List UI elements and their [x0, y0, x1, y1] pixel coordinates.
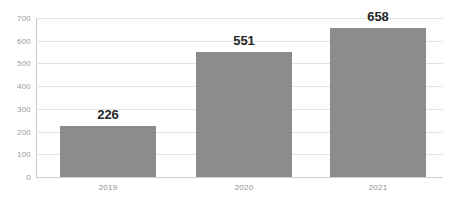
y-axis-tick-label: 400	[17, 82, 31, 91]
bar-value-label: 658	[367, 9, 388, 24]
y-axis-tick-label: 200	[17, 127, 31, 136]
gridline	[36, 177, 443, 178]
y-axis-tick-label: 700	[17, 14, 31, 23]
bar[interactable]	[196, 52, 292, 177]
x-axis-category-label: 2020	[235, 183, 254, 192]
bar-chart: 0100200300400500600700 22620195512020658…	[0, 0, 462, 201]
y-axis-tick-label: 100	[17, 150, 31, 159]
x-axis-category-label: 2021	[369, 183, 388, 192]
y-axis-tick-label: 0	[26, 173, 31, 182]
y-axis-tick-label: 600	[17, 36, 31, 45]
y-axis-tick-label: 300	[17, 104, 31, 113]
bar-value-label: 551	[233, 33, 254, 48]
bar[interactable]	[330, 28, 426, 177]
x-axis-category-label: 2019	[99, 183, 118, 192]
bar-value-label: 226	[97, 107, 118, 122]
bar[interactable]	[60, 126, 156, 177]
y-axis-tick-label: 500	[17, 59, 31, 68]
